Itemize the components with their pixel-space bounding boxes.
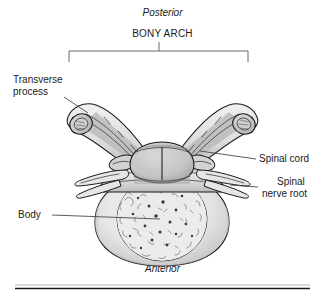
- spinal-cord: [130, 142, 194, 184]
- bony-arch-bracket: [69, 42, 248, 62]
- vertebra-cross-section-illustration: [0, 0, 325, 296]
- bottom-divider: [15, 285, 310, 289]
- figure-canvas: Posterior BONY ARCH Transverse process B…: [0, 0, 325, 296]
